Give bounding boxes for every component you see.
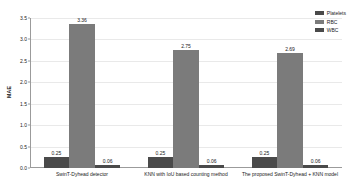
legend-item[interactable]: Platelets	[315, 10, 346, 16]
bar-slot: 0.25	[44, 18, 70, 168]
y-tick-label: 1.0	[20, 122, 27, 128]
y-tick-label: 2.0	[20, 79, 27, 85]
legend-swatch	[315, 20, 324, 24]
bar[interactable]: 0.25	[148, 157, 174, 168]
y-tick-label: 1.5	[20, 101, 27, 107]
bar-group-bars: 0.252.690.06	[252, 18, 329, 168]
y-tick-label: 2.5	[20, 58, 27, 64]
bar[interactable]: 2.69	[277, 53, 303, 168]
bar-value-label: 3.36	[77, 17, 87, 23]
bar-value-label: 0.06	[311, 158, 321, 164]
bar-group: 0.252.750.06	[134, 18, 238, 168]
legend-item[interactable]: RBC	[315, 19, 346, 25]
bar-value-label: 2.75	[181, 43, 191, 49]
bar-slot: 0.25	[148, 18, 174, 168]
bar-group-bars: 0.252.750.06	[148, 18, 225, 168]
bar[interactable]: 0.06	[303, 165, 329, 168]
legend-item[interactable]: WBC	[315, 27, 346, 33]
bar-groups: 0.253.360.060.252.750.060.252.690.06	[30, 18, 342, 168]
bar[interactable]: 0.06	[199, 165, 225, 168]
y-tick-label: 0.5	[20, 144, 27, 150]
bar[interactable]: 2.75	[173, 50, 199, 168]
x-tick-label: KNN with IoU based counting method	[134, 171, 238, 177]
bar-value-label: 0.06	[207, 158, 217, 164]
y-tick-label: 3.0	[20, 36, 27, 42]
bar-chart: MAE 0.00.51.01.52.02.53.03.5 0.253.360.0…	[0, 0, 354, 184]
legend-label: WBC	[327, 27, 339, 33]
chart-legend: PlateletsRBCWBC	[313, 9, 348, 34]
bar-value-label: 0.25	[155, 150, 165, 156]
bar-group: 0.253.360.06	[30, 18, 134, 168]
bar-value-label: 0.06	[103, 158, 113, 164]
legend-swatch	[315, 11, 324, 15]
bar-group: 0.252.690.06	[238, 18, 342, 168]
legend-label: Platelets	[327, 10, 346, 16]
bar-value-label: 0.25	[51, 150, 61, 156]
bar[interactable]: 0.25	[44, 157, 70, 168]
bar-slot: 2.69	[277, 18, 303, 168]
legend-swatch	[315, 28, 324, 32]
x-axis-tick-labels: SwinT-Dyhead detectorKNN with IoU based …	[30, 171, 342, 177]
bar-value-label: 2.69	[285, 46, 295, 52]
bar[interactable]: 3.36	[69, 24, 95, 168]
y-tick-label: 0.0	[20, 165, 27, 171]
y-tick-label: 3.5	[20, 15, 27, 21]
plot-area: 0.00.51.01.52.02.53.03.5 0.253.360.060.2…	[30, 18, 342, 168]
x-tick-label: SwinT-Dyhead detector	[30, 171, 134, 177]
bar[interactable]: 0.25	[252, 157, 278, 168]
bar[interactable]: 0.06	[95, 165, 121, 168]
bar-slot: 0.25	[252, 18, 278, 168]
bar-slot: 0.06	[303, 18, 329, 168]
bar-group-bars: 0.253.360.06	[44, 18, 121, 168]
bar-slot: 2.75	[173, 18, 199, 168]
legend-label: RBC	[327, 19, 338, 25]
bar-slot: 3.36	[69, 18, 95, 168]
y-axis-title: MAE	[6, 86, 12, 98]
bar-slot: 0.06	[199, 18, 225, 168]
bar-slot: 0.06	[95, 18, 121, 168]
x-tick-label: The proposed SwinT-Dyhead + KNN model	[238, 171, 342, 177]
bar-value-label: 0.25	[259, 150, 269, 156]
